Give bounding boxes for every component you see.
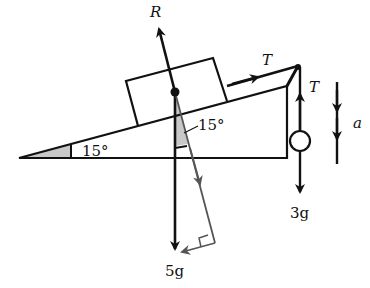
force-diagram: R T T a 15° 15° 5g 3g xyxy=(0,0,370,288)
incline-wedge xyxy=(19,86,287,158)
label-hanging-weight: 3g xyxy=(290,204,310,222)
label-reaction: R xyxy=(149,3,161,21)
label-acceleration: a xyxy=(353,114,362,132)
label-tension-incline: T xyxy=(262,51,273,69)
weight-component-arrow xyxy=(190,148,200,184)
label-weight-angle: 15° xyxy=(198,116,225,134)
weight-angle-leader xyxy=(184,126,198,133)
tension-arrow-incline xyxy=(232,77,258,84)
hanging-mass xyxy=(290,131,310,151)
label-incline-angle: 15° xyxy=(82,142,109,160)
label-tension-hanging: T xyxy=(309,78,320,96)
weight-perp-component xyxy=(182,243,215,252)
label-block-weight: 5g xyxy=(165,262,185,280)
block-centre xyxy=(171,88,180,97)
weight-angle-arc xyxy=(175,146,187,148)
reaction-arrow xyxy=(159,29,175,92)
